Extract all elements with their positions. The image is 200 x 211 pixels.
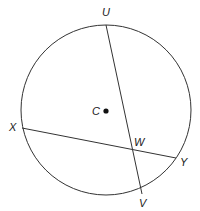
- chord-xy: [22, 128, 176, 158]
- label-u: U: [102, 6, 110, 18]
- label-w: W: [134, 136, 146, 148]
- chord-uv: [106, 25, 142, 194]
- center-point-c: [103, 108, 108, 113]
- label-x: X: [8, 121, 17, 133]
- label-v: V: [139, 197, 148, 209]
- label-y: Y: [180, 156, 188, 168]
- circle-diagram: U V X Y W C: [0, 0, 200, 211]
- label-c: C: [92, 105, 100, 117]
